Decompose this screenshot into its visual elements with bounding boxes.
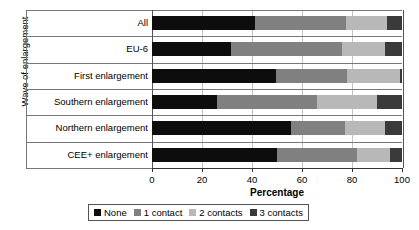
- bar-segment: [346, 16, 387, 30]
- category-label: All: [30, 10, 148, 36]
- x-axis-tick: [302, 168, 303, 172]
- legend-item[interactable]: 2 contacts: [189, 207, 242, 218]
- bar-segment: [152, 121, 291, 135]
- bar-segment: [345, 121, 385, 135]
- bar-segment: [152, 95, 217, 109]
- bar-segment: [317, 95, 377, 109]
- x-axis-title: Percentage: [152, 187, 402, 198]
- stacked-bar: [152, 121, 402, 135]
- x-axis-line: [152, 168, 402, 169]
- bar-segment: [276, 69, 347, 83]
- legend-item[interactable]: 1 contact: [134, 207, 183, 218]
- bar-segment: [385, 42, 403, 56]
- x-axis-tick-label: 0: [132, 174, 172, 185]
- bar-segment: [347, 69, 400, 83]
- legend-label: 1 contact: [144, 207, 183, 218]
- bar-segment: [255, 16, 346, 30]
- stacked-bar: [152, 95, 402, 109]
- bar-segment: [342, 42, 385, 56]
- stacked-bar: [152, 69, 402, 83]
- bar-segment: [152, 69, 276, 83]
- legend-label: 2 contacts: [199, 207, 242, 218]
- bar-segment: [385, 121, 403, 135]
- x-axis-tick: [352, 168, 353, 172]
- bar-segment: [377, 95, 402, 109]
- bar-row: CEE+ enlargement: [0, 142, 419, 168]
- legend-item[interactable]: 3 contacts: [250, 207, 303, 218]
- bar-segment: [231, 42, 342, 56]
- bar-row: First enlargement: [0, 63, 419, 89]
- legend-label: 3 contacts: [260, 207, 303, 218]
- category-label: EU-6: [30, 36, 148, 62]
- legend-label: None: [104, 207, 127, 218]
- legend-item[interactable]: None: [94, 207, 127, 218]
- bar-segment: [152, 148, 277, 162]
- stacked-bar-chart: Wave of enlargement AllEU-6First enlarge…: [0, 0, 419, 230]
- legend-swatch-icon: [134, 209, 141, 216]
- x-axis-tick-label: 100: [382, 174, 419, 185]
- bar-segment: [277, 148, 357, 162]
- bar-segment: [357, 148, 390, 162]
- chart-legend: None1 contact2 contacts3 contacts: [88, 204, 309, 221]
- stacked-bar: [152, 148, 402, 162]
- bar-row: Northern enlargement: [0, 115, 419, 141]
- x-axis-tick: [152, 168, 153, 172]
- category-label: Southern enlargement: [30, 89, 148, 115]
- x-axis-tick-label: 80: [332, 174, 372, 185]
- legend-swatch-icon: [94, 209, 101, 216]
- bar-row: All: [0, 10, 419, 36]
- bar-segment: [387, 16, 402, 30]
- stacked-bar: [152, 16, 402, 30]
- stacked-bar: [152, 42, 402, 56]
- bar-segment: [400, 69, 403, 83]
- legend-swatch-icon: [250, 209, 257, 216]
- bar-row: Southern enlargement: [0, 89, 419, 115]
- bar-segment: [390, 148, 403, 162]
- legend-swatch-icon: [189, 209, 196, 216]
- bar-row: EU-6: [0, 36, 419, 62]
- x-axis-tick-label: 60: [282, 174, 322, 185]
- bar-segment: [152, 16, 255, 30]
- x-axis-tick-label: 40: [232, 174, 272, 185]
- category-label: Northern enlargement: [30, 115, 148, 141]
- bar-segment: [217, 95, 317, 109]
- bar-segment: [291, 121, 345, 135]
- bar-segment: [152, 42, 231, 56]
- category-label: First enlargement: [30, 63, 148, 89]
- x-axis-tick: [252, 168, 253, 172]
- category-label: CEE+ enlargement: [30, 142, 148, 168]
- x-axis-tick: [402, 168, 403, 172]
- x-axis-tick-label: 20: [182, 174, 222, 185]
- x-axis-tick: [202, 168, 203, 172]
